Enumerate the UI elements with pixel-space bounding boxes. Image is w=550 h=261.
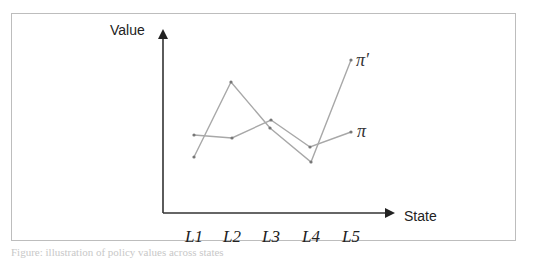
series-pi-points [192, 118, 352, 148]
x-tick-l2: L2 [222, 227, 241, 246]
x-tick-l1: L1 [184, 227, 203, 246]
series-pi-line [194, 120, 351, 147]
x-tick-l4: L4 [301, 227, 320, 246]
series-label-pi-prime: π′ [356, 50, 370, 70]
x-axis-label: State [404, 208, 437, 224]
x-tick-l3: L3 [261, 227, 280, 246]
x-tick-l5: L5 [341, 227, 360, 246]
series-pi-prime-line [194, 60, 351, 162]
y-axis-label: Value [110, 22, 145, 38]
figure-caption: Figure: illustration of policy values ac… [11, 246, 224, 258]
line-chart: Value State L1 L2 L3 L4 L5 π′ π [0, 0, 550, 261]
series-label-pi: π [357, 121, 367, 141]
